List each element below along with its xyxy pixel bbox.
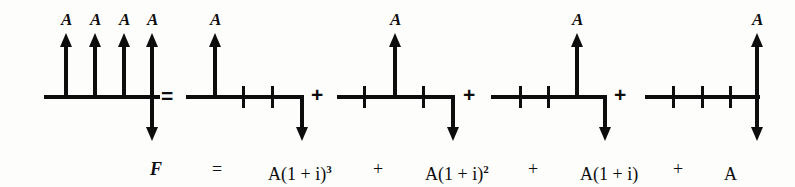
equation-term-2-base: A(1 + i) — [425, 164, 483, 184]
period-tick — [422, 86, 425, 108]
period-tick — [519, 86, 522, 108]
arrow-label-A: A — [752, 11, 763, 28]
arrow-shaft — [64, 45, 68, 97]
equation-term-1: A(1 + i)3 — [268, 158, 332, 185]
equation-term-2-exponent: 2 — [483, 163, 489, 175]
period-tick — [729, 86, 732, 108]
arrow-head-down-icon — [447, 127, 459, 141]
arrow-shaft — [300, 95, 304, 129]
arrow-shaft — [575, 45, 579, 97]
equation-row: F = A(1 + i)3 + A(1 + i)2 + A(1 + i) + A — [0, 158, 795, 186]
arrow-label-A: A — [210, 11, 221, 28]
plus-sign-1: + — [311, 84, 323, 105]
cash-flow-figure: A A A A = — [0, 0, 795, 187]
equation-term-3-base: A(1 + i) — [580, 164, 638, 184]
equation-term-1-base: A(1 + i) — [268, 164, 326, 184]
arrow-label-A: A — [147, 11, 158, 28]
plus-sign-3: + — [614, 84, 626, 105]
period-tick — [701, 86, 704, 108]
arrow-shaft — [393, 45, 397, 97]
equation-term-1-exponent: 3 — [326, 163, 332, 175]
equation-term-2: A(1 + i)2 — [425, 158, 489, 185]
arrow-head-down-icon — [146, 127, 158, 141]
arrow-shaft — [93, 45, 97, 97]
arrow-shaft — [150, 95, 154, 129]
equation-term-4: A — [724, 158, 737, 185]
arrow-shaft — [213, 45, 217, 97]
timeline-axis — [44, 95, 160, 99]
period-tick — [363, 86, 366, 108]
arrow-shaft — [755, 95, 759, 129]
arrow-label-A: A — [119, 11, 130, 28]
arrow-shaft — [150, 45, 154, 97]
period-tick — [672, 86, 675, 108]
arrow-head-down-icon — [599, 127, 611, 141]
arrow-label-A: A — [390, 11, 401, 28]
equals-sign: = — [161, 85, 173, 106]
equation-lhs-F: F — [150, 158, 162, 180]
arrow-shaft — [603, 95, 607, 129]
arrow-shaft — [122, 45, 126, 97]
arrow-shaft — [755, 45, 759, 97]
period-tick — [547, 86, 550, 108]
equation-term-4-base: A — [724, 164, 737, 184]
period-tick — [271, 86, 274, 108]
arrow-shaft — [451, 95, 455, 129]
equation-plus-2: + — [528, 158, 538, 180]
equation-term-3: A(1 + i) — [580, 158, 638, 185]
arrow-head-down-icon — [751, 127, 763, 141]
arrow-label-A: A — [572, 11, 583, 28]
arrow-label-A: A — [90, 11, 101, 28]
equation-plus-3: + — [673, 158, 683, 180]
arrow-head-down-icon — [296, 127, 308, 141]
equation-plus-1: + — [373, 158, 383, 180]
plus-sign-2: + — [463, 84, 475, 105]
arrow-label-A: A — [61, 11, 72, 28]
period-tick — [242, 86, 245, 108]
equation-equals: = — [212, 158, 222, 180]
